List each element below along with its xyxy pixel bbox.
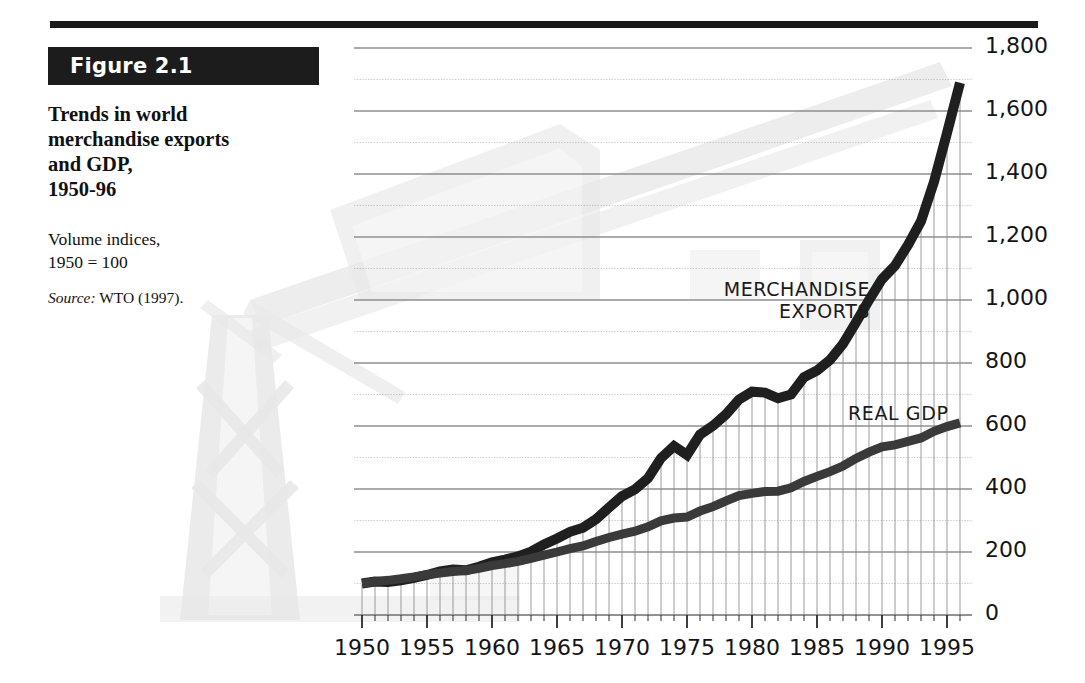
chart-svg bbox=[0, 0, 1085, 683]
y-axis-tick-label: 1,800 bbox=[985, 33, 1048, 58]
series-label-merchandise-exports: MERCHANDISEEXPORTS bbox=[640, 278, 870, 322]
y-axis-tick-label: 600 bbox=[985, 411, 1027, 436]
series-label-real-gdp: REAL GDP bbox=[848, 402, 948, 424]
series-label-line: REAL GDP bbox=[848, 402, 948, 424]
series-label-line: MERCHANDISE bbox=[640, 278, 870, 300]
y-axis-tick-label: 0 bbox=[985, 600, 999, 625]
x-axis-tick-label: 1995 bbox=[902, 635, 992, 660]
y-axis-tick-label: 1,400 bbox=[985, 159, 1048, 184]
y-axis-tick-label: 800 bbox=[985, 348, 1027, 373]
y-axis-tick-label: 1,600 bbox=[985, 96, 1048, 121]
figure-container: Figure 2.1 Trends in world merchandise e… bbox=[0, 0, 1085, 683]
series-label-line: EXPORTS bbox=[640, 300, 870, 322]
chart-area: 02004006008001,0001,2001,4001,6001,800 1… bbox=[0, 0, 1085, 683]
y-axis-tick-label: 400 bbox=[985, 474, 1027, 499]
y-axis-tick-label: 1,000 bbox=[985, 285, 1048, 310]
y-axis-tick-label: 1,200 bbox=[985, 222, 1048, 247]
y-axis-tick-label: 200 bbox=[985, 537, 1027, 562]
